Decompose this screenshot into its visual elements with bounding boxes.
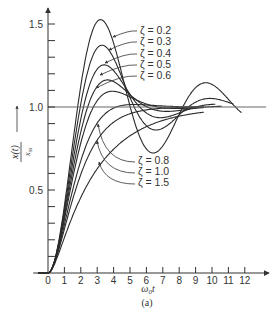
- figure-caption: (a): [141, 297, 152, 309]
- x-tick-label: 1: [62, 275, 68, 286]
- x-tick-label: 11: [223, 275, 234, 286]
- y-axis: 0.51.01.5: [29, 8, 55, 273]
- legend-arrow-icon: [113, 31, 137, 37]
- x-tick-label: 7: [160, 275, 166, 286]
- x-tick-label: 5: [127, 275, 133, 286]
- y-tick-label: 0.5: [29, 185, 43, 196]
- curve-zeta-0_5: [38, 80, 222, 273]
- x-tick-label: 2: [78, 275, 84, 286]
- y-axis-title: x(t) xss: [9, 142, 33, 162]
- legend-label: ζ = 1.5: [138, 176, 169, 188]
- curve-zeta-0_3: [38, 45, 233, 273]
- x-tick-label: 0: [45, 275, 51, 286]
- x-tick-label: 8: [176, 275, 182, 286]
- curve-zeta-1: [38, 107, 204, 273]
- legend-label: ζ = 0.3: [140, 35, 171, 47]
- x-tick-label: 4: [111, 275, 117, 286]
- y-tick-label: 1.5: [29, 19, 43, 30]
- curve-zeta-0_8: [38, 105, 204, 274]
- x-tick-label: 12: [239, 275, 251, 286]
- legend-arrow-icon: [98, 124, 135, 162]
- y-label-numerator: x(t): [9, 144, 21, 160]
- x-tick-label: 3: [94, 275, 100, 286]
- y-label-denominator: xss: [22, 147, 33, 157]
- curve-zeta-1_5: [38, 112, 204, 273]
- x-axis-title: ω0t: [141, 283, 155, 296]
- y-tick-label: 1.0: [29, 102, 43, 113]
- step-response-chart: 0.51.01.5 0123456789101112 ζ = 0.2ζ = 0.…: [0, 0, 274, 316]
- x-tick-label: 10: [206, 275, 218, 286]
- legend-label: ζ = 0.6: [140, 69, 171, 81]
- x-tick-label: 9: [193, 275, 199, 286]
- legend-arrow-icon: [105, 54, 137, 63]
